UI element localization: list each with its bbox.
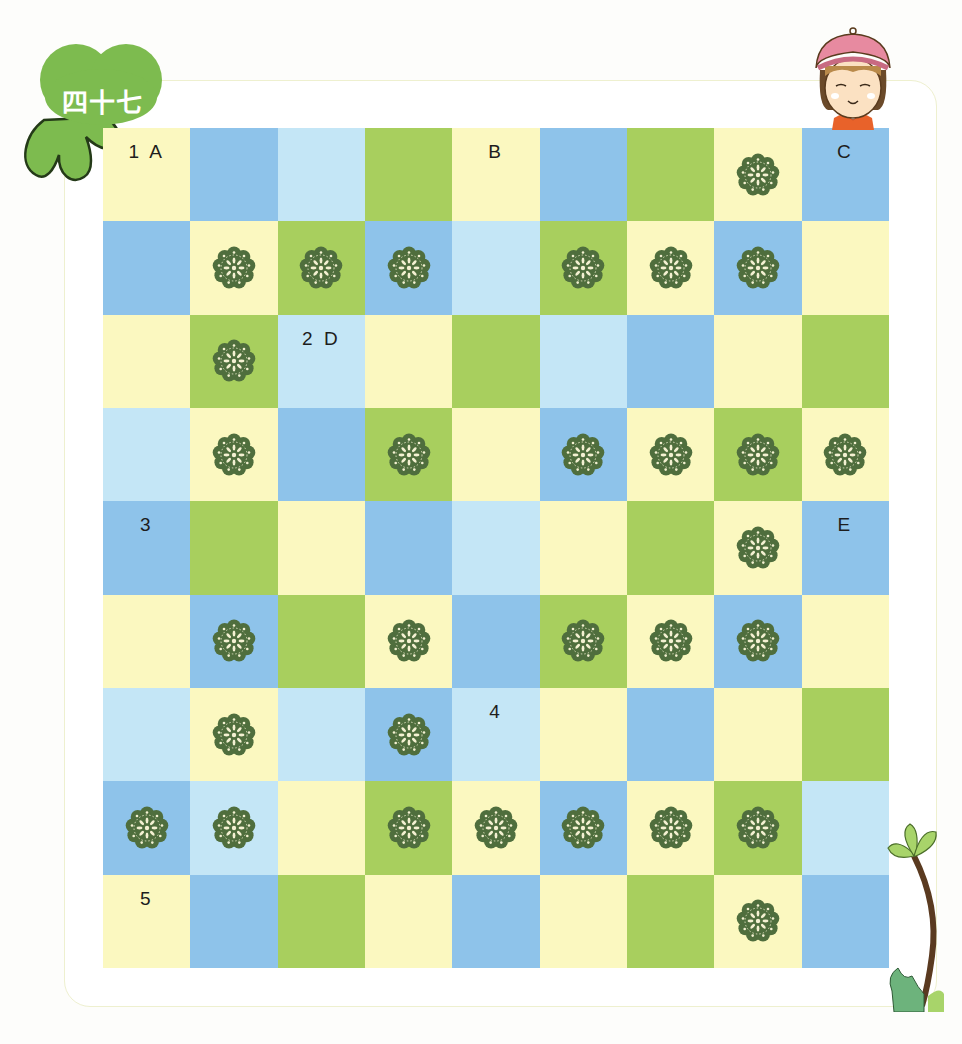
- board-cell[interactable]: [103, 781, 190, 874]
- puzzle-board: 1 AB: [103, 128, 889, 968]
- board-cell[interactable]: E: [802, 501, 889, 594]
- board-cell[interactable]: [540, 315, 627, 408]
- board-cell[interactable]: [714, 875, 801, 968]
- board-cell[interactable]: [190, 781, 277, 874]
- board-cell[interactable]: [627, 501, 714, 594]
- flower-icon: [648, 245, 694, 291]
- board-cell[interactable]: [802, 688, 889, 781]
- board-cell[interactable]: [103, 408, 190, 501]
- board-cell[interactable]: [540, 501, 627, 594]
- cell-label: 1 A: [103, 141, 190, 163]
- board-cell[interactable]: [627, 315, 714, 408]
- board-cell[interactable]: [452, 875, 539, 968]
- board-cell[interactable]: [627, 595, 714, 688]
- girl-icon: [808, 26, 898, 130]
- flower-icon: [735, 525, 781, 571]
- board-cell[interactable]: [627, 875, 714, 968]
- board-cell[interactable]: [714, 128, 801, 221]
- board-cell[interactable]: [627, 688, 714, 781]
- board-cell[interactable]: [540, 128, 627, 221]
- board-cell[interactable]: 3: [103, 501, 190, 594]
- board-cell[interactable]: [452, 595, 539, 688]
- board-cell[interactable]: [190, 128, 277, 221]
- board-cell[interactable]: [714, 408, 801, 501]
- board-cell[interactable]: [365, 688, 452, 781]
- board-cell[interactable]: [714, 315, 801, 408]
- board-cell[interactable]: [540, 875, 627, 968]
- board-cell[interactable]: [190, 595, 277, 688]
- board-cell[interactable]: [190, 221, 277, 314]
- board-cell[interactable]: [540, 688, 627, 781]
- flower-icon: [560, 245, 606, 291]
- board-cell[interactable]: [802, 315, 889, 408]
- flower-icon: [211, 432, 257, 478]
- board-cell[interactable]: [278, 688, 365, 781]
- board-cell[interactable]: [365, 595, 452, 688]
- board-cell[interactable]: [278, 501, 365, 594]
- board-cell[interactable]: [190, 688, 277, 781]
- board-cell[interactable]: [103, 688, 190, 781]
- board-cell[interactable]: [627, 221, 714, 314]
- board-cell[interactable]: [627, 128, 714, 221]
- board-cell[interactable]: [452, 315, 539, 408]
- board-cell[interactable]: [627, 408, 714, 501]
- board-cell[interactable]: [714, 221, 801, 314]
- board-cell[interactable]: [714, 501, 801, 594]
- board-cell[interactable]: [278, 595, 365, 688]
- flower-icon: [211, 338, 257, 384]
- board-cell[interactable]: [452, 781, 539, 874]
- board-cell[interactable]: [278, 221, 365, 314]
- board-cell[interactable]: [190, 315, 277, 408]
- board-cell[interactable]: [103, 595, 190, 688]
- flower-icon: [386, 712, 432, 758]
- board-cell[interactable]: [365, 408, 452, 501]
- flower-icon: [386, 432, 432, 478]
- flower-icon: [386, 245, 432, 291]
- board-cell[interactable]: [365, 501, 452, 594]
- board-cell[interactable]: [714, 595, 801, 688]
- board-cell[interactable]: [714, 781, 801, 874]
- board-cell[interactable]: B: [452, 128, 539, 221]
- board-cell[interactable]: [540, 781, 627, 874]
- cell-label: 3: [103, 514, 190, 536]
- cell-label: 4: [452, 701, 539, 723]
- board-cell[interactable]: [278, 781, 365, 874]
- board-cell[interactable]: [278, 128, 365, 221]
- board-cell[interactable]: [452, 221, 539, 314]
- board-cell[interactable]: [103, 315, 190, 408]
- board-cell[interactable]: [802, 875, 889, 968]
- flower-icon: [560, 618, 606, 664]
- board-cell[interactable]: 2 D: [278, 315, 365, 408]
- board-cell[interactable]: [190, 875, 277, 968]
- flower-icon: [648, 432, 694, 478]
- board-cell[interactable]: [627, 781, 714, 874]
- flower-icon: [735, 805, 781, 851]
- board-cell[interactable]: [278, 875, 365, 968]
- board-cell[interactable]: [365, 315, 452, 408]
- board-cell[interactable]: 1 A: [103, 128, 190, 221]
- board-cell[interactable]: 4: [452, 688, 539, 781]
- board-cell[interactable]: [540, 221, 627, 314]
- board-cell[interactable]: [103, 221, 190, 314]
- flower-icon: [298, 245, 344, 291]
- board-cell[interactable]: [452, 501, 539, 594]
- board-cell[interactable]: [190, 408, 277, 501]
- flower-icon: [211, 805, 257, 851]
- board-cell[interactable]: [365, 781, 452, 874]
- board-cell[interactable]: [540, 408, 627, 501]
- board-cell[interactable]: [190, 501, 277, 594]
- board-cell[interactable]: [365, 221, 452, 314]
- board-cell[interactable]: C: [802, 128, 889, 221]
- board-cell[interactable]: [802, 221, 889, 314]
- board-cell[interactable]: [802, 408, 889, 501]
- board-cell[interactable]: [452, 408, 539, 501]
- flower-icon: [735, 245, 781, 291]
- board-cell[interactable]: [802, 595, 889, 688]
- board-cell[interactable]: [365, 875, 452, 968]
- board-cell[interactable]: [540, 595, 627, 688]
- board-cell[interactable]: [714, 688, 801, 781]
- board-cell[interactable]: 5: [103, 875, 190, 968]
- board-cell[interactable]: [278, 408, 365, 501]
- board-cell[interactable]: [365, 128, 452, 221]
- board-cell[interactable]: [802, 781, 889, 874]
